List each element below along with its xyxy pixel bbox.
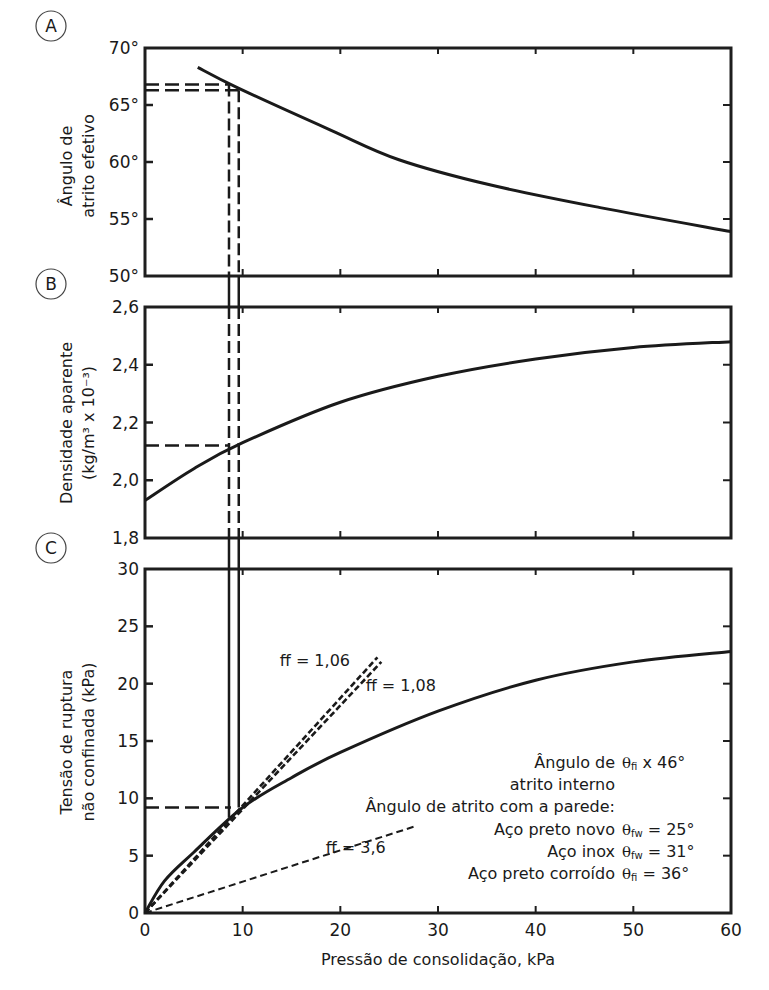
y-tick-label: 1,8 xyxy=(112,528,139,548)
x-axis-label: Pressão de consolidação, kPa xyxy=(321,950,555,969)
y-tick-label: 30 xyxy=(117,559,139,579)
y-tick-label: 5 xyxy=(128,846,139,866)
annotation-label: ff = 1,08 xyxy=(366,676,436,695)
panel-frame xyxy=(145,48,731,276)
legend-label: atrito interno xyxy=(510,775,615,794)
y-axis-label: atrito efetivo xyxy=(79,114,98,218)
x-tick-label: 50 xyxy=(623,920,645,940)
y-axis-label: não confinada (kPa) xyxy=(79,662,98,821)
y-tick-label: 55° xyxy=(109,209,139,229)
y-axis-label: Tensão de ruptura xyxy=(57,670,76,816)
series--ngulo-de-atrito-efetivo xyxy=(198,67,731,231)
panel-frame xyxy=(145,569,731,913)
panel-a: 50°55°60°65°70°AÂngulo deatrito efetivo xyxy=(36,11,731,286)
series-densidade-aparente xyxy=(145,342,731,501)
legend-value: θfi = 36° xyxy=(622,864,689,883)
panel-frame xyxy=(145,307,731,538)
y-tick-label: 50° xyxy=(109,266,139,286)
y-tick-label: 25 xyxy=(117,616,139,636)
y-tick-label: 20 xyxy=(117,674,139,694)
legend-value: θfw = 31° xyxy=(622,842,695,861)
y-tick-label: 2,0 xyxy=(112,470,139,490)
panel-label: A xyxy=(45,16,57,36)
legend: Ângulo deθfi x 46°atrito internoÂngulo d… xyxy=(365,753,694,883)
legend-label: Ângulo de atrito com a parede: xyxy=(365,797,615,816)
legend-label: Aço inox xyxy=(547,842,615,861)
annotation-label: ff = 3,6 xyxy=(326,838,386,857)
y-axis-label: Densidade aparente xyxy=(57,342,76,504)
x-tick-label: 40 xyxy=(525,920,547,940)
chart-panels: 50°55°60°65°70°AÂngulo deatrito efetivo1… xyxy=(36,11,731,923)
y-tick-label: 2,2 xyxy=(112,413,139,433)
legend-value: θfi x 46° xyxy=(622,753,685,772)
chart-figure: 50°55°60°65°70°AÂngulo deatrito efetivo1… xyxy=(0,0,769,990)
annotation-label: ff = 1,06 xyxy=(280,651,350,670)
y-tick-label: 2,6 xyxy=(112,297,139,317)
y-tick-label: 65° xyxy=(109,95,139,115)
x-tick-label: 0 xyxy=(140,920,151,940)
panel-b: 1,82,02,22,42,6BDensidade aparente(kg/m³… xyxy=(36,269,731,548)
x-tick-label: 10 xyxy=(232,920,254,940)
series-ff-1-06 xyxy=(145,657,377,913)
x-tick-label: 30 xyxy=(427,920,449,940)
y-tick-label: 2,4 xyxy=(112,355,139,375)
y-tick-label: 0 xyxy=(128,903,139,923)
x-tick-label: 20 xyxy=(330,920,352,940)
y-axis-label: Ângulo de xyxy=(57,126,76,207)
y-tick-label: 60° xyxy=(109,152,139,172)
panel-c: 051015202530CTensão de rupturanão confin… xyxy=(36,533,731,923)
legend-label: Ângulo de xyxy=(534,753,615,772)
x-tick-label: 60 xyxy=(720,920,742,940)
x-axis: Pressão de consolidação, kPa 01020304050… xyxy=(140,920,742,969)
y-axis-label: (kg/m³ x 10⁻³) xyxy=(79,366,98,480)
panel-label: C xyxy=(45,538,57,558)
y-tick-label: 70° xyxy=(109,38,139,58)
legend-value: θfw = 25° xyxy=(622,820,695,839)
panel-label: B xyxy=(45,274,57,294)
y-tick-label: 10 xyxy=(117,788,139,808)
legend-label: Aço preto novo xyxy=(494,820,615,839)
legend-label: Aço preto corroído xyxy=(468,864,615,883)
y-tick-label: 15 xyxy=(117,731,139,751)
